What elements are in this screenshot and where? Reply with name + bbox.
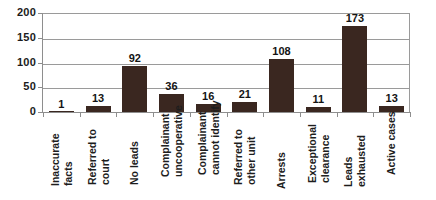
- x-category-label[interactable]: Exceptionalclearance: [300, 116, 337, 200]
- bar-value-label: 108: [260, 46, 304, 57]
- x-tick-mark: [263, 113, 264, 117]
- bar-chart: 050100150200 113923616211081117313 Inacc…: [0, 0, 436, 200]
- x-category-label-line: Active cases: [385, 111, 398, 175]
- x-tick-mark: [373, 113, 374, 117]
- bar-value-label: 173: [333, 13, 377, 24]
- y-tick-mark: [38, 38, 43, 39]
- x-category-label-text: Complainantuncooperative: [159, 105, 184, 177]
- x-category-label-text: Active cases: [385, 111, 398, 175]
- bar[interactable]: [49, 111, 74, 113]
- y-tick-mark: [38, 87, 43, 88]
- x-category-label-text: Complainantcannot identify: [196, 100, 221, 175]
- x-category-label[interactable]: Referred tocourt: [80, 116, 117, 200]
- x-category-label-line: Leads: [342, 135, 355, 187]
- x-tick-mark: [116, 113, 117, 117]
- x-category-label-line: court: [98, 128, 111, 184]
- x-category-label[interactable]: Inaccuratefacts: [43, 116, 80, 200]
- bar[interactable]: [122, 66, 147, 112]
- y-tick-mark: [38, 63, 43, 64]
- x-category-label-line: Complainant: [159, 105, 172, 177]
- bar[interactable]: [232, 102, 257, 112]
- x-category-label[interactable]: Active cases: [373, 116, 410, 200]
- bar-value-label: 21: [223, 89, 267, 100]
- bar[interactable]: [306, 107, 331, 112]
- y-tick-label: 100: [0, 57, 36, 68]
- x-tick-mark: [153, 113, 154, 117]
- bar-value-label: 13: [370, 93, 414, 104]
- x-category-label-text: Leadsexhausted: [342, 135, 367, 187]
- x-category-label-text: Referred tocourt: [86, 128, 111, 184]
- x-category-label-line: No leads: [128, 141, 141, 185]
- x-category-label-line: Exceptional: [306, 124, 319, 183]
- x-category-label-line: exhausted: [355, 135, 368, 187]
- x-category-label[interactable]: Complainantuncooperative: [153, 116, 190, 200]
- x-tick-mark: [190, 113, 191, 117]
- x-category-label-text: No leads: [128, 141, 141, 185]
- x-category-label-text: Exceptionalclearance: [306, 124, 331, 183]
- y-axis: 050100150200: [0, 0, 36, 200]
- bar-value-label: 11: [296, 94, 340, 105]
- x-category-label-line: Arrests: [275, 152, 288, 189]
- x-category-label-line: cannot identify: [208, 100, 221, 175]
- x-tick-mark: [300, 113, 301, 117]
- x-category-label-line: uncooperative: [171, 105, 184, 177]
- x-category-label-line: facts: [61, 133, 74, 186]
- bar[interactable]: [86, 106, 111, 112]
- x-category-label-text: Arrests: [275, 152, 288, 189]
- x-tick-mark: [227, 113, 228, 117]
- bar-value-label: 92: [113, 53, 157, 64]
- x-tick-mark: [80, 113, 81, 117]
- y-tick-label: 150: [0, 32, 36, 43]
- x-category-label-line: clearance: [318, 124, 331, 183]
- bars-layer: 113923616211081117313: [43, 13, 410, 112]
- x-tick-mark: [43, 113, 44, 117]
- x-category-label[interactable]: Referred toother unit: [227, 116, 264, 200]
- y-tick-label: 50: [0, 81, 36, 92]
- x-category-label[interactable]: Complainantcannot identify: [190, 116, 227, 200]
- x-tick-mark: [410, 113, 411, 117]
- bar-value-label: 13: [76, 93, 120, 104]
- x-category-label-line: Referred to: [86, 128, 99, 184]
- x-category-label-text: Inaccuratefacts: [49, 133, 74, 186]
- y-tick-label: 200: [0, 7, 36, 18]
- x-category-label[interactable]: Arrests: [263, 116, 300, 200]
- x-category-label-line: Referred to: [232, 128, 245, 184]
- x-category-label-line: Complainant: [196, 100, 209, 175]
- x-category-label-line: other unit: [245, 128, 258, 184]
- x-axis-category-labels: InaccuratefactsReferred tocourtNo leadsC…: [43, 116, 410, 200]
- bar[interactable]: [269, 59, 294, 112]
- bar[interactable]: [342, 26, 367, 112]
- y-tick-label: 0: [0, 106, 36, 117]
- y-tick-mark: [38, 13, 43, 14]
- x-category-label-line: Inaccurate: [49, 133, 62, 186]
- x-category-label[interactable]: Leadsexhausted: [337, 116, 374, 200]
- x-category-label[interactable]: No leads: [116, 116, 153, 200]
- x-tick-mark: [337, 113, 338, 117]
- x-category-label-text: Referred toother unit: [232, 128, 257, 184]
